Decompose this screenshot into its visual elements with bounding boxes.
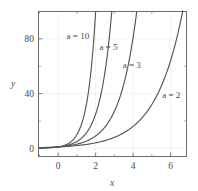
curve-label-0: a = 2 xyxy=(162,90,180,100)
curve-label-1: a = 3 xyxy=(123,60,142,70)
y-tick-label-0: 0 xyxy=(29,144,34,154)
x-axis-title: x xyxy=(109,178,115,188)
x-tick-label-3: 6 xyxy=(168,161,173,171)
chart-figure: a = 2a = 3a = 5a = 10 024604080 x y xyxy=(0,0,198,191)
x-tick-label-0: 0 xyxy=(56,161,61,171)
exponential-curves-plot: a = 2a = 3a = 5a = 10 024604080 x y xyxy=(0,0,198,191)
y-tick-label-2: 80 xyxy=(25,34,35,44)
y-axis-title: y xyxy=(10,79,16,89)
x-tick-label-2: 4 xyxy=(131,161,136,171)
x-tick-label-1: 2 xyxy=(93,161,98,171)
y-tick-label-1: 40 xyxy=(25,89,35,99)
curve-label-3: a = 10 xyxy=(67,31,90,41)
curve-label-2: a = 5 xyxy=(99,42,118,52)
